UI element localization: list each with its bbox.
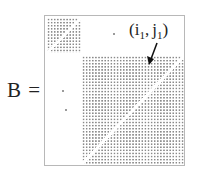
arrow-icon [140, 40, 164, 68]
diagonal-gap-top-left [47, 18, 81, 53]
paren-close: ) [162, 20, 168, 39]
entry-annotation: (i1,j1) [129, 20, 168, 41]
matrix-label: B = [7, 78, 41, 103]
comma: , [145, 20, 149, 39]
stray-entry [62, 90, 64, 92]
diagonal-gap-bottom-right [82, 56, 184, 164]
stray-entry [65, 109, 67, 111]
stray-entry [113, 33, 115, 35]
